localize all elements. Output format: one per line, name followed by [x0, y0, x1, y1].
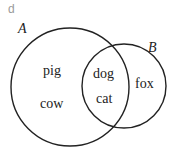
set-b-item: fox	[135, 76, 154, 91]
intersection-item: dog	[93, 66, 114, 81]
set-a-item: pig	[43, 63, 61, 78]
set-a-label: A	[17, 21, 27, 36]
intersection-item: cat	[96, 91, 112, 106]
venn-diagram: d A B pig cow dog cat fox	[0, 0, 170, 154]
set-b-label: B	[148, 40, 157, 55]
panel-label: d	[8, 2, 15, 16]
set-a-item: cow	[40, 96, 64, 111]
